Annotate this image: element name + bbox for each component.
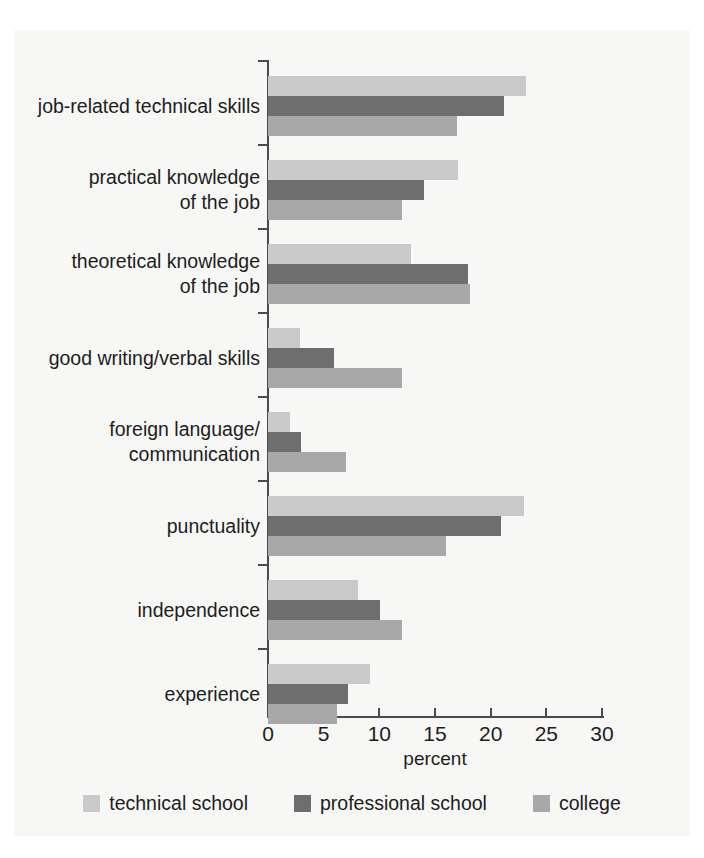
bar <box>268 684 348 704</box>
y-tick <box>258 312 268 314</box>
bar <box>268 600 380 620</box>
bar <box>268 96 504 116</box>
bar <box>268 368 402 388</box>
bar <box>268 620 402 640</box>
bar <box>268 432 301 452</box>
bar <box>268 704 337 724</box>
x-tick-label: 25 <box>535 722 558 746</box>
y-tick <box>258 480 268 482</box>
bar <box>268 496 524 516</box>
legend-label: college <box>559 792 621 815</box>
bar <box>268 116 457 136</box>
bar <box>268 536 446 556</box>
x-tick-label: 30 <box>590 722 613 746</box>
category-label: punctuality <box>167 514 260 539</box>
category-label: practical knowledge of the job <box>89 165 260 215</box>
legend-label: professional school <box>320 792 487 815</box>
bar <box>268 284 470 304</box>
legend-item[interactable]: college <box>533 792 621 815</box>
y-tick <box>258 144 268 146</box>
bar <box>268 664 370 684</box>
bar <box>268 516 501 536</box>
x-tick-label: 15 <box>423 722 446 746</box>
y-tick <box>258 564 268 566</box>
category-label: job-related technical skills <box>38 94 260 119</box>
x-axis-title: percent <box>403 748 466 770</box>
legend-swatch-icon <box>294 795 311 812</box>
bar <box>268 76 526 96</box>
bar <box>268 328 300 348</box>
x-tick <box>601 708 603 717</box>
legend-item[interactable]: professional school <box>294 792 487 815</box>
bar <box>268 200 402 220</box>
grouped-bar-chart: 051015202530 job-related technical skill… <box>0 0 704 858</box>
bar <box>268 412 290 432</box>
bar <box>268 160 458 180</box>
legend-label: technical school <box>109 792 248 815</box>
bar <box>268 580 358 600</box>
bar <box>268 452 346 472</box>
category-label: independence <box>137 598 260 623</box>
x-tick-label: 10 <box>368 722 391 746</box>
bar <box>268 348 334 368</box>
x-tick-label: 5 <box>318 722 330 746</box>
chart-legend: technical schoolprofessional schoolcolle… <box>0 788 704 818</box>
x-tick-label: 0 <box>262 722 274 746</box>
x-tick <box>545 708 547 717</box>
bar <box>268 244 411 264</box>
x-tick-label: 20 <box>479 722 502 746</box>
legend-swatch-icon <box>533 795 550 812</box>
category-label: foreign language/ communication <box>109 417 260 467</box>
y-tick <box>258 648 268 650</box>
x-tick <box>434 708 436 717</box>
bar <box>268 264 468 284</box>
legend-item[interactable]: technical school <box>83 792 248 815</box>
y-tick <box>258 228 268 230</box>
y-tick <box>258 60 268 62</box>
x-tick <box>490 708 492 717</box>
category-label: theoretical knowledge of the job <box>71 249 260 299</box>
category-label: good writing/verbal skills <box>49 346 260 371</box>
legend-swatch-icon <box>83 795 100 812</box>
bar <box>268 180 424 200</box>
category-label: experience <box>165 682 260 707</box>
y-tick <box>258 396 268 398</box>
x-tick <box>378 708 380 717</box>
